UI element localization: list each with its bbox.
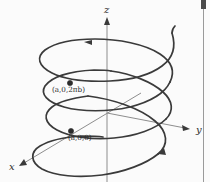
figure-canvas: z y x (a,0,2πb) (a,0,0)	[0, 0, 210, 182]
frame-right-edge	[201, 0, 206, 182]
helix-figure: z y x (a,0,2πb) (a,0,0)	[0, 0, 210, 182]
z-axis-label: z	[103, 4, 110, 15]
x-axis-label: x	[9, 161, 15, 172]
point-upper-label: (a,0,2πb)	[52, 85, 85, 94]
point-origin-radius-label: (a,0,0)	[68, 133, 92, 142]
direction-arrow-upper	[84, 40, 92, 45]
helix-curve	[33, 26, 175, 176]
y-axis-label: y	[195, 124, 202, 135]
